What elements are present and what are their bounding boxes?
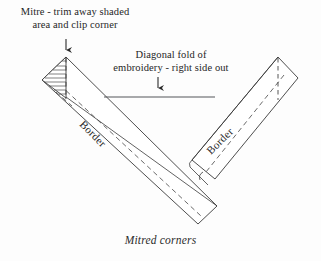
right-strip-lower-junction-2 [199, 172, 203, 180]
figure-caption: Mitred corners [0, 234, 321, 246]
right-strip-outline [192, 57, 298, 179]
shaded-mitre-triangle [42, 57, 66, 99]
right-strip-seam-dashed [206, 75, 284, 172]
right-border-strip [189, 57, 298, 185]
mitre-triangle-outline [42, 57, 66, 98]
left-border-strip [42, 57, 217, 224]
left-strip-fold-edge [66, 97, 217, 206]
mitre-annotation-text: Mitre - trim away shaded area and clip c… [0, 6, 150, 31]
figure-canvas: Mitre - trim away shaded area and clip c… [0, 0, 321, 261]
left-strip-seam-dashed [60, 85, 201, 216]
left-strip-outline [42, 57, 217, 224]
fold-annotation-text: Diagonal fold of embroidery - right side… [96, 49, 246, 74]
mitred-corners-diagram [0, 0, 321, 261]
